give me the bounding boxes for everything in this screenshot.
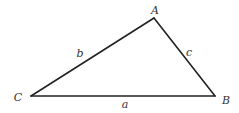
side-b-line xyxy=(31,18,154,96)
vertex-label-b: B xyxy=(221,94,230,107)
vertex-label-c: C xyxy=(14,91,23,104)
vertex-label-a: A xyxy=(150,4,159,17)
side-c-line xyxy=(154,18,215,96)
side-label-a: a xyxy=(122,98,129,111)
side-label-b: b xyxy=(76,47,83,60)
side-label-c: c xyxy=(186,46,192,59)
triangle-diagram: A B C a b c xyxy=(0,0,239,113)
